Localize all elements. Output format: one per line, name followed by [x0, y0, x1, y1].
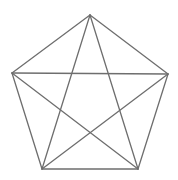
pentagon-pentagram-diagram [0, 0, 178, 180]
pentagon-edge-bottom-left-to-left [12, 73, 42, 169]
star-diagonal-top-to-bottom-left [42, 15, 90, 169]
star-diagonal-right-to-bottom-left [42, 74, 168, 169]
star-diagonal-left-to-right [12, 73, 168, 74]
pentagon-edge-right-to-bottom-right [138, 74, 168, 169]
pentagon-edge-left-to-top [12, 15, 90, 73]
pentagon-edge-top-to-right [90, 15, 168, 74]
star-diagonal-top-to-bottom-right [90, 15, 138, 169]
star-diagonal-left-to-bottom-right [12, 73, 138, 169]
